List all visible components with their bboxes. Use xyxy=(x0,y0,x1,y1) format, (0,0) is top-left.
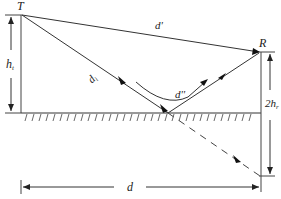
transmitter-label: T xyxy=(17,0,25,13)
direct-path-label: d' xyxy=(155,19,164,31)
receiver-label: R xyxy=(258,36,267,50)
reflected-path xyxy=(168,53,259,113)
ground-hatching xyxy=(25,114,251,121)
image-path-dashed xyxy=(168,113,260,176)
rx-image-height-label: 2hr xyxy=(265,97,279,111)
incident-path-label: di xyxy=(85,71,100,86)
image-path-arrow xyxy=(233,155,241,163)
direct-path xyxy=(22,15,259,52)
incident-path xyxy=(22,15,168,113)
distance-label: d xyxy=(127,180,134,194)
reflected-curve xyxy=(136,82,205,100)
reflected-path-label: d'' xyxy=(175,88,186,100)
tx-height-label: ht xyxy=(6,57,15,72)
two-ray-diagram: ht T d' di d'' R xyxy=(0,0,281,199)
